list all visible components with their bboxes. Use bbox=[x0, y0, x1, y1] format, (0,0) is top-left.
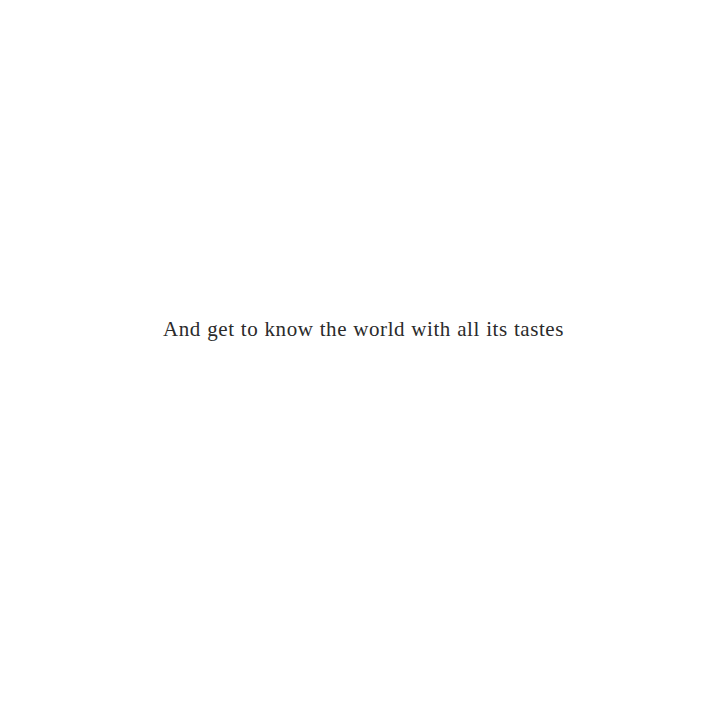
book-page: And get to know the world with all its t… bbox=[0, 0, 713, 717]
tagline-text: And get to know the world with all its t… bbox=[0, 314, 713, 344]
